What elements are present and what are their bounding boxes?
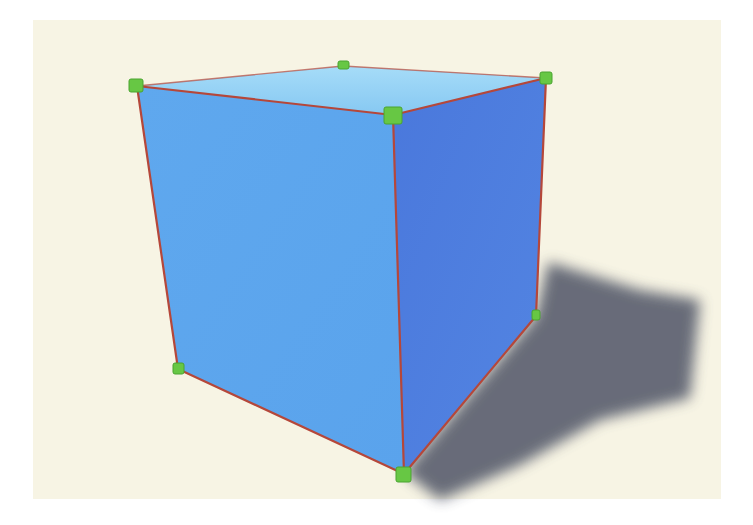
vertex-handle[interactable] [396,467,411,482]
vertex-handle[interactable] [532,310,540,320]
vertex-handle[interactable] [338,61,349,69]
vertex-handle[interactable] [540,72,552,84]
cube-render [0,0,753,525]
vertex-handle[interactable] [173,363,184,374]
vertex-handle[interactable] [129,79,143,92]
vertex-handle[interactable] [384,107,402,124]
